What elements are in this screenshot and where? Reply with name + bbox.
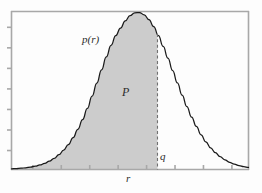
shaded-area-label: P bbox=[122, 86, 129, 98]
x-axis-label: r bbox=[126, 173, 130, 184]
density-curve-label: p(r) bbox=[82, 34, 99, 45]
probability-density-figure: p(r) P q r bbox=[0, 0, 262, 193]
quantile-label: q bbox=[160, 151, 166, 162]
plot-canvas bbox=[0, 0, 262, 193]
